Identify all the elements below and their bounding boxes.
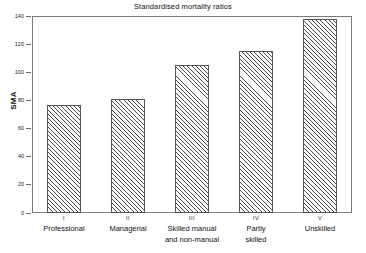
- chart-title: Standardised mortality ratios: [0, 2, 366, 11]
- y-axis-tick-mark: [26, 100, 31, 101]
- bar: [175, 65, 209, 213]
- bar: [239, 51, 273, 213]
- y-axis-tick-label: 60: [0, 124, 24, 133]
- bar: [47, 105, 81, 213]
- x-axis-category: VUnskilled: [275, 214, 365, 234]
- bar: [303, 19, 337, 213]
- bar-series: [32, 16, 352, 213]
- category-roman-numeral: V: [275, 214, 365, 223]
- category-label: Unskilled: [275, 224, 365, 234]
- y-axis-tick-label: 40: [0, 152, 24, 161]
- x-axis-category-labels: IProfessionalIIManagerialIIISkilled manu…: [32, 214, 352, 253]
- y-axis-tick-mark: [26, 44, 31, 45]
- bar: [111, 99, 145, 213]
- y-axis-tick-label: 100: [0, 68, 24, 77]
- chart-container: Standardised mortality ratios SMA 140120…: [0, 0, 366, 253]
- y-axis-tick-label: 80: [0, 96, 24, 105]
- y-axis-tick-mark: [26, 72, 31, 73]
- y-axis-tick-mark: [26, 128, 31, 129]
- y-axis-tick-label: 140: [0, 12, 24, 21]
- y-axis-tick-mark: [26, 156, 31, 157]
- category-label-line2: skilled: [211, 235, 301, 245]
- y-axis-tick-label: 20: [0, 180, 24, 189]
- y-axis-tick-mark: [26, 16, 31, 17]
- y-axis-tick-label: 120: [0, 40, 24, 49]
- y-axis-tick-mark: [26, 184, 31, 185]
